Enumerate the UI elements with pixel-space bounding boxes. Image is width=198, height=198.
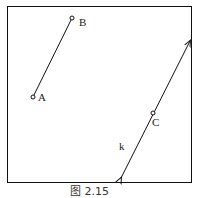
label-c: C [152,116,159,128]
diagram-frame [8,7,192,183]
label-k: k [119,140,125,152]
point-c-marker [151,111,155,115]
point-a-marker [31,95,35,99]
point-b-marker [70,16,74,20]
label-a: A [38,91,46,103]
line-k [121,41,190,178]
segment-ab [33,18,72,97]
figure-caption: 图 2.15 [70,185,109,198]
geometry-diagram: A B C k 图 2.15 [0,0,198,198]
label-b: B [79,16,86,28]
